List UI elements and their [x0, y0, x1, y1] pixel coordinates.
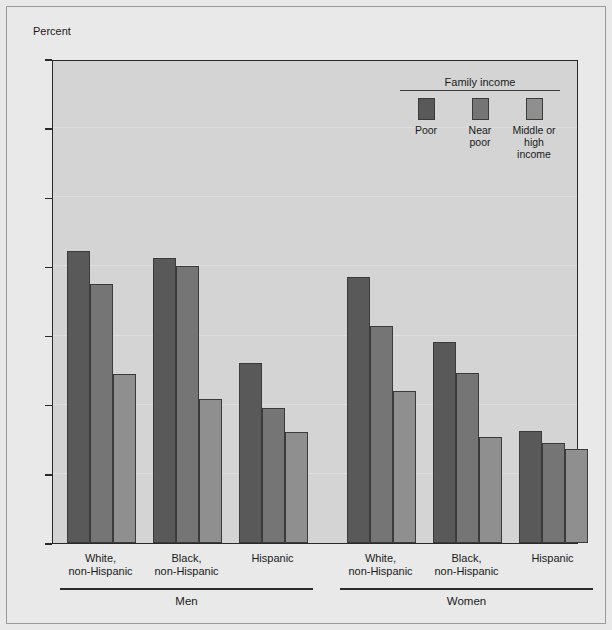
- bar: [456, 373, 479, 543]
- legend-label: Middle or high income: [508, 124, 560, 160]
- gridline: [53, 265, 577, 266]
- bar: [199, 399, 222, 544]
- gridline: [53, 335, 577, 336]
- bar: [262, 408, 285, 543]
- x-category-label: White, non-Hispanic: [348, 552, 412, 578]
- bar: [393, 391, 416, 543]
- bar: [542, 443, 565, 543]
- bar: [565, 449, 588, 543]
- legend-label: Near poor: [469, 124, 492, 148]
- bar: [479, 437, 502, 543]
- group-rule: [60, 588, 313, 590]
- chart-figure: Percent 010203040506070 White, non-Hispa…: [0, 0, 612, 630]
- bar: [239, 363, 262, 543]
- bar: [433, 342, 456, 543]
- gridline: [53, 196, 577, 197]
- legend-swatch: [526, 98, 543, 120]
- x-category-label: Hispanic: [251, 552, 293, 565]
- y-tick-mark: [45, 336, 52, 338]
- group-rule: [340, 588, 593, 590]
- x-category-label: Black, non-Hispanic: [434, 552, 498, 578]
- bar: [285, 432, 308, 543]
- legend-label: Poor: [415, 124, 437, 136]
- bar: [90, 284, 113, 543]
- legend-item[interactable]: Near poor: [454, 98, 506, 148]
- legend: Family income PoorNear poorMiddle or hig…: [400, 76, 560, 160]
- legend-item[interactable]: Middle or high income: [508, 98, 560, 160]
- y-tick-mark: [45, 543, 52, 545]
- bar: [176, 266, 199, 543]
- bar: [347, 277, 370, 543]
- y-tick-mark: [45, 128, 52, 130]
- bar: [370, 326, 393, 543]
- y-tick-mark: [45, 198, 52, 200]
- y-tick-mark: [45, 267, 52, 269]
- y-tick-mark: [45, 59, 52, 61]
- legend-items: PoorNear poorMiddle or high income: [400, 98, 560, 160]
- legend-item[interactable]: Poor: [400, 98, 452, 136]
- legend-swatch: [472, 98, 489, 120]
- y-axis-title: Percent: [33, 25, 71, 37]
- group-label: Men: [175, 595, 197, 607]
- y-tick-mark: [45, 405, 52, 407]
- legend-divider: [400, 90, 560, 91]
- y-tick-mark: [45, 474, 52, 476]
- x-category-label: Hispanic: [531, 552, 573, 565]
- group-label: Women: [447, 595, 486, 607]
- x-category-label: White, non-Hispanic: [68, 552, 132, 578]
- bar: [113, 374, 136, 543]
- legend-swatch: [418, 98, 435, 120]
- bar: [519, 431, 542, 543]
- legend-title: Family income: [400, 76, 560, 88]
- x-category-label: Black, non-Hispanic: [154, 552, 218, 578]
- bar: [153, 258, 176, 543]
- bar: [67, 251, 90, 543]
